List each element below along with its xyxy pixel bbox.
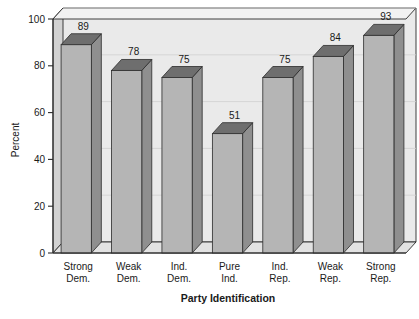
- bar-3: [212, 123, 252, 253]
- bar-1: [112, 59, 152, 253]
- category-label-4-line1: Ind.: [272, 261, 289, 272]
- bar-value-label-4: 75: [279, 54, 291, 65]
- y-tick-label-40: 40: [34, 154, 46, 165]
- bar-value-label-3: 51: [229, 110, 241, 121]
- category-label-0-line1: Strong: [63, 261, 92, 272]
- bar-2: [162, 67, 202, 254]
- bar-front-face-3: [212, 134, 242, 253]
- bar-side-face-6: [394, 24, 404, 253]
- bar-value-label-6: 93: [380, 11, 392, 22]
- bar-value-label-5: 84: [330, 32, 342, 43]
- top-wall: [53, 8, 416, 19]
- bar-side-face-4: [293, 67, 303, 254]
- bar-front-face-2: [162, 78, 192, 254]
- bar-side-face-1: [142, 59, 152, 253]
- category-label-2-line1: Ind.: [171, 261, 188, 272]
- y-tick-label-80: 80: [34, 60, 46, 71]
- bar-side-face-3: [243, 123, 253, 253]
- chart-canvas: 020406080100 89787551758493 StrongDem.We…: [0, 0, 419, 319]
- bar-4: [263, 67, 303, 254]
- category-label-2-line2: Dem.: [167, 273, 191, 284]
- category-label-1-line2: Dem.: [117, 273, 141, 284]
- y-tick-label-100: 100: [28, 14, 45, 25]
- bar-value-label-2: 75: [179, 54, 191, 65]
- bar-front-face-6: [364, 35, 394, 253]
- bar-side-face-5: [343, 45, 353, 253]
- bar-chart: 020406080100 89787551758493 StrongDem.We…: [0, 0, 419, 319]
- bar-front-face-0: [61, 45, 91, 253]
- bar-front-face-4: [263, 78, 293, 254]
- bar-value-label-0: 89: [78, 21, 90, 32]
- category-label-3-line1: Pure: [219, 261, 241, 272]
- x-axis-title: Party Identification: [181, 292, 276, 304]
- bar-front-face-5: [313, 56, 343, 253]
- bar-5: [313, 45, 353, 253]
- y-tick-label-60: 60: [34, 107, 46, 118]
- category-label-1-line1: Weak: [116, 261, 142, 272]
- category-label-6-line2: Rep.: [370, 273, 391, 284]
- y-axis-title: Percent: [10, 123, 21, 158]
- y-tick-label-0: 0: [39, 248, 45, 259]
- bar-0: [61, 34, 101, 253]
- category-label-5-line2: Rep.: [320, 273, 341, 284]
- category-label-0-line2: Dem.: [66, 273, 90, 284]
- category-label-4-line2: Rep.: [269, 273, 290, 284]
- bar-front-face-1: [112, 70, 142, 253]
- bar-6: [364, 24, 404, 253]
- category-label-3-line2: Ind.: [221, 273, 238, 284]
- category-label-5-line1: Weak: [318, 261, 344, 272]
- category-label-6-line1: Strong: [366, 261, 395, 272]
- bar-value-label-1: 78: [128, 46, 140, 57]
- bar-side-face-2: [192, 67, 202, 254]
- y-tick-label-20: 20: [34, 201, 46, 212]
- bar-side-face-0: [91, 34, 101, 253]
